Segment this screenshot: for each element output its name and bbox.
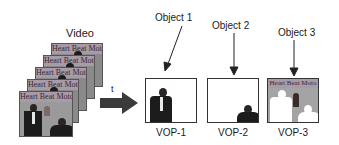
vop-3-label: VOP-3	[278, 127, 308, 138]
arrow-head-1	[164, 62, 171, 71]
vop-3-box: Heart Beat Moto	[267, 78, 319, 123]
vop-1-label: VOP-1	[156, 127, 186, 138]
arrow-head-2	[230, 67, 238, 75]
vop-2-label: VOP-2	[218, 127, 248, 138]
arrow-head-3	[290, 68, 298, 76]
pointer-arrows	[0, 0, 339, 145]
seated-silhouette	[298, 112, 319, 123]
frame-banner: Heart Beat Moto	[268, 79, 318, 88]
seated-person	[237, 112, 259, 123]
standing-silhouette	[270, 97, 292, 123]
shirt	[160, 97, 163, 111]
vop-1-box	[145, 78, 197, 123]
vop-2-box	[207, 78, 259, 123]
steeple-icon	[293, 93, 299, 107]
